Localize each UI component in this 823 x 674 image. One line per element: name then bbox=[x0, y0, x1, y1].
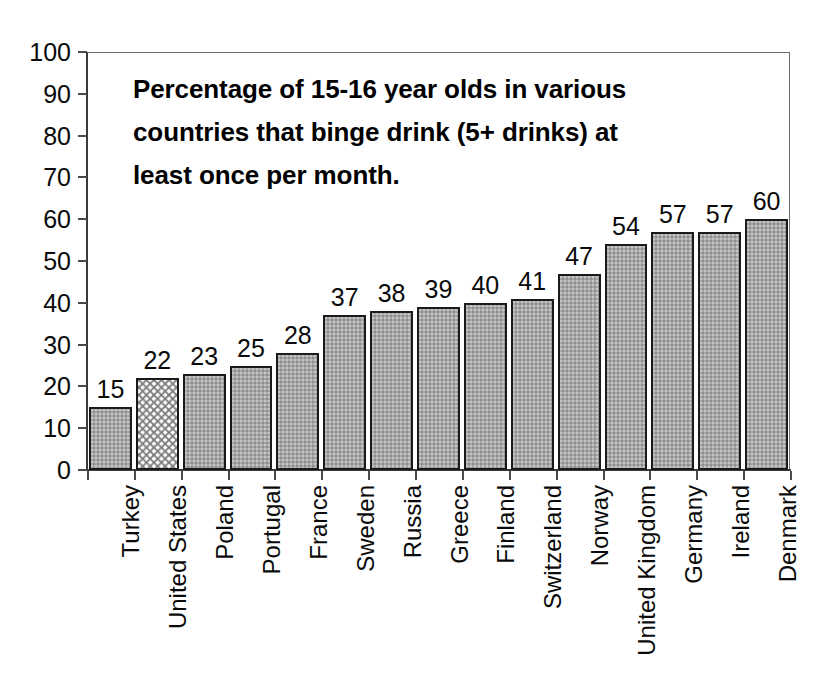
bar-value-label: 28 bbox=[266, 321, 329, 349]
y-tick-mark bbox=[78, 135, 87, 137]
y-tick-mark bbox=[78, 469, 87, 471]
bar[interactable] bbox=[230, 366, 273, 471]
x-tick-label: Finland bbox=[494, 485, 518, 564]
bar-value-label: 41 bbox=[501, 267, 564, 295]
x-tick-label: Russia bbox=[401, 485, 425, 558]
bar[interactable] bbox=[136, 378, 179, 470]
bar[interactable] bbox=[558, 274, 601, 470]
bar-group: 25 bbox=[228, 52, 275, 470]
bar[interactable] bbox=[370, 311, 413, 470]
y-tick-mark bbox=[78, 302, 87, 304]
x-tick-mark bbox=[743, 471, 745, 480]
y-tick-label: 60 bbox=[43, 204, 71, 234]
x-tick-label: Ireland bbox=[729, 485, 753, 558]
y-tick-mark bbox=[78, 93, 87, 95]
x-tick-label: Germany bbox=[682, 485, 706, 584]
bar-group: 54 bbox=[603, 52, 650, 470]
x-tick-mark bbox=[134, 471, 136, 480]
bar[interactable] bbox=[276, 353, 319, 470]
bar-group: 22 bbox=[134, 52, 181, 470]
x-axis: TurkeyUnited StatesPolandPortugalFranceS… bbox=[87, 471, 790, 671]
bar[interactable] bbox=[651, 232, 694, 470]
bar-group: 15 bbox=[87, 52, 134, 470]
y-tick-label: 80 bbox=[43, 121, 71, 151]
x-tick-label: Portugal bbox=[260, 485, 284, 574]
bar-group: 38 bbox=[368, 52, 415, 470]
x-tick-mark bbox=[696, 471, 698, 480]
x-tick-label: Norway bbox=[588, 485, 612, 566]
x-tick-mark bbox=[87, 471, 89, 480]
bar-group: 40 bbox=[462, 52, 509, 470]
x-tick-mark bbox=[321, 471, 323, 480]
bar[interactable] bbox=[417, 307, 460, 470]
bar-group: 23 bbox=[181, 52, 228, 470]
y-tick-mark bbox=[78, 427, 87, 429]
bar-group: 47 bbox=[556, 52, 603, 470]
x-tick-mark bbox=[603, 471, 605, 480]
bar-group: 39 bbox=[415, 52, 462, 470]
x-tick-label: Poland bbox=[213, 485, 237, 560]
x-tick-label: France bbox=[307, 485, 331, 560]
x-tick-label: Denmark bbox=[776, 485, 800, 582]
x-tick-mark bbox=[415, 471, 417, 480]
x-tick-label: Sweden bbox=[354, 485, 378, 572]
bar-value-label: 60 bbox=[735, 187, 798, 215]
x-tick-label: Turkey bbox=[119, 485, 143, 557]
y-tick-label: 100 bbox=[29, 37, 71, 67]
x-tick-label: United Kingdom bbox=[635, 485, 659, 656]
y-tick-label: 70 bbox=[43, 162, 71, 192]
x-tick-label: Greece bbox=[448, 485, 472, 564]
y-tick-mark bbox=[78, 51, 87, 53]
bars-layer: 152223252837383940414754575760 bbox=[87, 52, 790, 470]
bar[interactable] bbox=[511, 299, 554, 470]
y-tick-label: 50 bbox=[43, 246, 71, 276]
y-tick-label: 0 bbox=[57, 455, 71, 485]
x-tick-mark bbox=[228, 471, 230, 480]
x-tick-mark bbox=[274, 471, 276, 480]
bar-group: 28 bbox=[274, 52, 321, 470]
x-tick-mark bbox=[368, 471, 370, 480]
bar[interactable] bbox=[698, 232, 741, 470]
bar-value-label: 15 bbox=[79, 375, 142, 403]
y-tick-label: 10 bbox=[43, 413, 71, 443]
bar-chart: 0102030405060708090100 Percentage of 15-… bbox=[0, 0, 823, 674]
bar[interactable] bbox=[183, 374, 226, 470]
bar[interactable] bbox=[323, 315, 366, 470]
bar[interactable] bbox=[464, 303, 507, 470]
x-tick-mark bbox=[462, 471, 464, 480]
x-tick-mark bbox=[649, 471, 651, 480]
x-tick-mark bbox=[790, 471, 792, 480]
y-tick-label: 30 bbox=[43, 330, 71, 360]
bar-group: 37 bbox=[321, 52, 368, 470]
bar-group: 57 bbox=[696, 52, 743, 470]
y-tick-label: 40 bbox=[43, 288, 71, 318]
y-tick-label: 90 bbox=[43, 79, 71, 109]
y-tick-mark bbox=[78, 260, 87, 262]
x-tick-label: Switzerland bbox=[541, 485, 565, 609]
x-tick-label: United States bbox=[166, 485, 190, 629]
bar-group: 60 bbox=[743, 52, 790, 470]
bar[interactable] bbox=[89, 407, 132, 470]
y-tick-label: 20 bbox=[43, 371, 71, 401]
bar[interactable] bbox=[745, 219, 788, 470]
bar[interactable] bbox=[605, 244, 648, 470]
y-tick-mark bbox=[78, 344, 87, 346]
x-tick-mark bbox=[556, 471, 558, 480]
bar-group: 57 bbox=[649, 52, 696, 470]
bar-value-label: 47 bbox=[548, 242, 611, 270]
x-tick-mark bbox=[509, 471, 511, 480]
y-tick-mark bbox=[78, 176, 87, 178]
x-tick-mark bbox=[181, 471, 183, 480]
y-tick-mark bbox=[78, 218, 87, 220]
